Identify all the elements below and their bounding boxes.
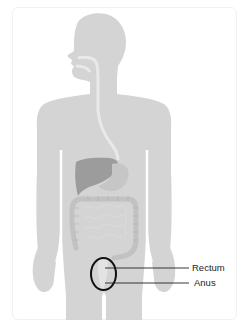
anus-label: Anus	[194, 278, 216, 288]
rectum-label: Rectum	[192, 263, 225, 273]
